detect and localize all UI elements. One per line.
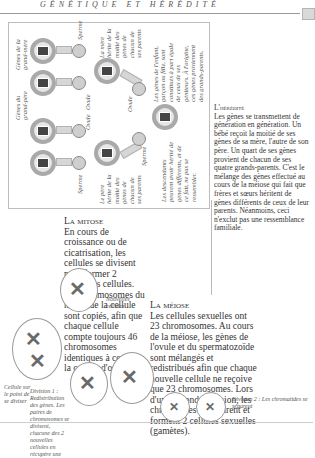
- gamete: [132, 82, 146, 96]
- meiosis-title: La méiose: [150, 300, 258, 311]
- mitosis-title: La mitose: [64, 216, 148, 227]
- label-sperme-2: Sperme: [76, 176, 83, 194]
- parent-cell-mother: [94, 58, 120, 84]
- arrow: [56, 126, 72, 134]
- grandparent-cell: [30, 150, 56, 176]
- father-caption: Le père hérite de la moitié des gènes de…: [98, 170, 143, 204]
- heredity-section: L'hérédité Les gènes se transmettent de …: [214, 104, 310, 233]
- new-cell: ✕: [60, 268, 98, 312]
- arrow: [56, 46, 72, 54]
- label-grandfather-genes-1: Gènes du grand-père: [14, 78, 29, 120]
- grandparent-cell: [30, 38, 56, 64]
- daughter-cell: ✕: [160, 392, 190, 422]
- caption-division-2: Division 2 : Les chromatides se séparent: [232, 396, 310, 410]
- mother-caption: La mère hérite de la moitié des gènes de…: [98, 24, 143, 58]
- label-ovule-3: Ovule: [126, 94, 133, 112]
- grandparent-cell: [30, 118, 56, 144]
- caption-division-1: Division 1 : Redistribution des gènes. L…: [30, 388, 70, 458]
- gamete: [72, 156, 86, 170]
- label-sperme-1: Sperme: [76, 22, 83, 40]
- child-caption: Les gènes de l'enfant, garçon ou fille, …: [152, 40, 198, 102]
- new-cell: ✕: [70, 362, 108, 406]
- page-tab-marker: [302, 8, 315, 20]
- gamete: [72, 76, 86, 90]
- label-grandmother-genes-1: Gènes de la grand-mère: [14, 28, 29, 70]
- daughter-cell: ✕: [196, 392, 226, 422]
- bottom-rule: [0, 422, 313, 423]
- label-ovule-1: Ovule: [84, 92, 91, 110]
- column-divider: [211, 200, 212, 295]
- gamete: [132, 132, 146, 146]
- grandparent-cell: [30, 70, 56, 96]
- arrow: [56, 158, 72, 166]
- descendants-caption: Les descendants peuvent avoir hérité de …: [160, 140, 190, 202]
- arrow: [56, 78, 72, 86]
- gamete: [72, 44, 86, 58]
- child-cell: [152, 104, 178, 130]
- caption-new-cells: Nouvelles cellules: [106, 296, 136, 310]
- dividing-cell: ✕ ✕: [12, 318, 62, 380]
- heredity-body: Les gènes se transmettent de génération …: [214, 113, 310, 233]
- meiosis-cell: ✕: [110, 352, 154, 404]
- header-rule: [0, 13, 300, 14]
- label-sperme-3: Sperme: [140, 148, 147, 166]
- parent-cell-father: [94, 140, 120, 166]
- running-header: GÉNÉTIQUE ET HÉRÉDITÉ: [40, 0, 313, 12]
- caption-dividing-cell: Cellule sur le point de se diviser: [4, 384, 32, 405]
- label-ovule-2: Ovule: [84, 112, 91, 130]
